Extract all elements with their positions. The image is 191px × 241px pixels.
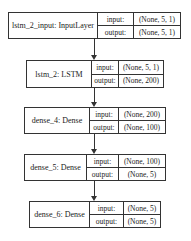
node-name: lstm_2_input: InputLayer xyxy=(9,13,98,38)
output-label: output: xyxy=(98,25,133,38)
node-lstm-2-input: lstm_2_input: InputLayer input: output: … xyxy=(8,12,181,39)
node-name: dense_5: Dense xyxy=(25,155,87,180)
input-shape: (None, 5) xyxy=(124,202,160,214)
output-label: output: xyxy=(90,120,118,133)
input-label: input: xyxy=(98,13,133,25)
output-label: output: xyxy=(92,74,118,88)
input-shape: (None, 100) xyxy=(119,155,165,167)
node-name: lstm_2: LSTM xyxy=(27,61,92,87)
output-shape: (None, 5) xyxy=(124,214,160,227)
node-dense-5: dense_5: Dense input: output: (None, 100… xyxy=(24,154,166,181)
input-label: input: xyxy=(92,61,118,74)
output-shape: (None, 5, 1) xyxy=(134,25,180,38)
input-label: input: xyxy=(90,108,118,120)
output-shape: (None, 200) xyxy=(119,74,163,88)
node-name: dense_4: Dense xyxy=(25,108,90,133)
input-label: input: xyxy=(90,202,123,214)
output-label: output: xyxy=(87,167,118,180)
edge-1-2 xyxy=(94,88,95,102)
node-dense-6: dense_6: Dense input: output: (None, 5) … xyxy=(29,201,161,228)
input-label: input: xyxy=(87,155,118,167)
output-shape: (None, 100) xyxy=(119,120,165,133)
output-label: output: xyxy=(90,214,123,227)
node-lstm-2: lstm_2: LSTM input: output: (None, 5, 1)… xyxy=(26,60,164,88)
output-shape: (None, 5) xyxy=(119,167,165,180)
input-shape: (None, 200) xyxy=(119,108,165,120)
edge-2-3 xyxy=(94,134,95,149)
node-dense-4: dense_4: Dense input: output: (None, 200… xyxy=(24,107,166,134)
edge-0-1 xyxy=(94,39,95,55)
edge-3-4 xyxy=(94,181,95,196)
node-name: dense_6: Dense xyxy=(30,202,90,227)
input-shape: (None, 5, 1) xyxy=(119,61,163,74)
input-shape: (None, 5, 1) xyxy=(134,13,180,25)
